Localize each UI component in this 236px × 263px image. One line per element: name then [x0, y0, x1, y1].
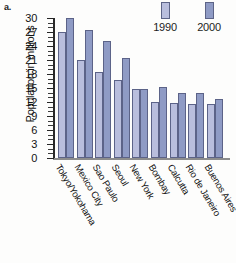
y-tick-minor — [48, 93, 53, 94]
y-tick-minor — [48, 51, 53, 52]
bar-1990 — [151, 102, 159, 158]
bar-1990 — [170, 103, 178, 158]
bar-group — [206, 18, 225, 158]
bar-1990 — [58, 32, 66, 158]
bar-2000 — [103, 41, 111, 158]
bar-2000 — [178, 93, 186, 158]
y-tick-label: 3 — [31, 144, 37, 145]
bar-2000 — [85, 30, 93, 158]
y-tick-label: 12 — [25, 102, 37, 103]
bar-1990 — [132, 89, 140, 158]
y-tick-major: 24 — [47, 46, 54, 47]
x-axis-line — [53, 158, 230, 160]
y-tick-minor — [48, 135, 53, 136]
y-tick-major: 6 — [47, 130, 54, 131]
bar-group — [57, 18, 76, 158]
y-tick-minor — [48, 69, 53, 70]
y-tick-minor — [48, 139, 53, 140]
y-tick-major: 30 — [47, 18, 54, 19]
y-tick-minor — [48, 97, 53, 98]
y-tick-minor — [48, 111, 53, 112]
y-tick-minor — [48, 23, 53, 24]
y-tick-label: 24 — [25, 46, 37, 47]
y-tick-label: 9 — [31, 116, 37, 117]
bar-1990 — [95, 72, 103, 158]
bar-group — [76, 18, 95, 158]
y-tick-label: 15 — [25, 88, 37, 89]
y-tick-minor — [48, 107, 53, 108]
bar-2000 — [140, 89, 148, 158]
y-tick-label: 27 — [25, 32, 37, 33]
y-tick-label: 21 — [25, 60, 37, 61]
y-tick-label: 6 — [31, 130, 37, 131]
bar-1990 — [114, 80, 122, 158]
bar-1990 — [188, 104, 196, 158]
y-tick-major: 15 — [47, 88, 54, 89]
bar-1990 — [207, 104, 215, 158]
bar-2000 — [215, 99, 223, 158]
y-tick-label: 30 — [25, 18, 37, 19]
plot-area: 036912151821242730 Tokyo/YokohamaMexico … — [56, 18, 229, 158]
y-tick-major: 18 — [47, 74, 54, 75]
bar-group — [187, 18, 206, 158]
y-tick-minor — [48, 125, 53, 126]
part-label: a. — [4, 2, 11, 12]
legend-swatch-1990 — [161, 2, 170, 19]
y-tick-minor — [48, 55, 53, 56]
y-tick-minor — [48, 65, 53, 66]
legend-swatch-2000 — [205, 2, 214, 19]
y-tick-major: 27 — [47, 32, 54, 33]
bar-2000 — [122, 58, 130, 158]
y-tick-minor — [48, 37, 53, 38]
y-tick-major: 3 — [47, 144, 54, 145]
y-tick-major: 0 — [47, 158, 54, 159]
y-tick-label: 18 — [25, 74, 37, 75]
y-tick-minor — [48, 83, 53, 84]
y-tick-minor — [48, 79, 53, 80]
y-tick-major: 21 — [47, 60, 54, 61]
y-tick-major: 12 — [47, 102, 54, 103]
bar-group — [131, 18, 150, 158]
bar-group — [150, 18, 169, 158]
y-tick-minor — [48, 41, 53, 42]
bar-2000 — [66, 18, 74, 158]
bar-group — [113, 18, 132, 158]
bar-2000 — [196, 93, 204, 158]
bar-2000 — [159, 87, 167, 158]
y-tick-minor — [48, 27, 53, 28]
y-tick-major: 9 — [47, 116, 54, 117]
y-tick-label: 0 — [31, 158, 37, 159]
bar-chart-figure: a. 1990 2000 Population in millions 0369… — [0, 0, 236, 263]
bar-group — [169, 18, 188, 158]
bar-group — [94, 18, 113, 158]
y-tick-minor — [48, 153, 53, 154]
bar-1990 — [77, 60, 85, 158]
y-tick-minor — [48, 149, 53, 150]
y-tick-minor — [48, 121, 53, 122]
